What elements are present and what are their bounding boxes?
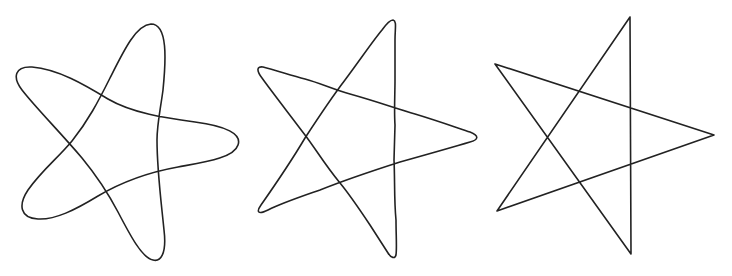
stars-canvas — [0, 0, 732, 276]
canvas-background — [0, 0, 732, 276]
